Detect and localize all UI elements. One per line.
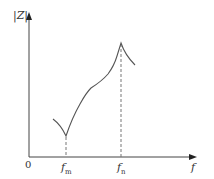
impedance-diagram xyxy=(0,0,214,179)
y-axis-label: |Z| xyxy=(13,10,28,21)
fn-label: fn xyxy=(117,162,126,176)
x-axis-arrow-icon xyxy=(189,154,197,160)
impedance-curve xyxy=(53,43,135,136)
fm-label: fm xyxy=(61,162,72,176)
fn-label-sub: n xyxy=(121,168,126,176)
origin-label: 0 xyxy=(25,160,31,170)
x-axis-label: f xyxy=(191,162,195,173)
fm-label-sub: m xyxy=(65,168,72,176)
